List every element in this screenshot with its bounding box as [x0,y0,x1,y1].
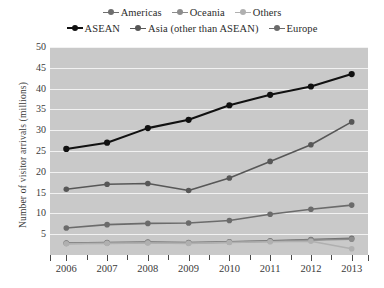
series-europe [64,202,355,230]
series-asean [63,71,355,152]
y-tick-label: 5 [24,229,46,239]
data-point [267,92,273,98]
data-point [349,236,355,242]
data-point [64,241,70,247]
legend-entry-others[interactable]: Others [235,7,282,18]
data-point [64,186,70,192]
y-tick-label: 35 [24,104,46,114]
x-axis-ticks [50,255,368,262]
data-point [104,222,110,228]
x-tick-mark [107,255,108,261]
legend-label-others: Others [253,7,282,18]
x-tick-label: 2009 [169,263,209,275]
legend-row-2: ASEAN Asia (other than ASEAN) Europe [0,20,384,36]
data-point [186,117,192,123]
x-tick-label: 2012 [291,263,331,275]
x-tick-mark-minor [168,255,169,260]
y-axis-tick-labels: 5101520253035404550 [22,47,46,255]
y-tick-label: 30 [24,125,46,135]
data-point [63,146,69,152]
data-point [145,221,151,227]
data-point [349,202,355,208]
legend-label-americas: Americas [121,7,162,18]
legend-row-1: Americas Oceania Others [0,4,384,20]
legend-label-europe: Europe [287,23,318,34]
x-tick-label: 2006 [46,263,86,275]
legend-entry-oceania[interactable]: Oceania [172,7,225,18]
legend-marker-icon-europe [269,24,285,33]
x-tick-mark-minor [250,255,251,260]
x-tick-mark-minor [87,255,88,260]
data-point [349,71,355,77]
legend-marker-icon-americas [103,8,119,17]
data-point [104,140,110,146]
plot-area [50,47,368,255]
y-tick-label: 50 [24,42,46,52]
x-tick-mark [148,255,149,261]
legend-label-asia-other: Asia (other than ASEAN) [148,23,259,34]
data-point [145,240,151,246]
data-point [308,206,314,212]
legend-label-asean: ASEAN [85,23,121,34]
data-point [308,142,314,148]
chart-legend: Americas Oceania Others [0,4,384,38]
data-point [226,102,232,108]
legend-marker-icon-asia-other [130,24,146,33]
x-tick-label: 2010 [209,263,249,275]
data-point [227,240,233,246]
x-tick-mark-minor [331,255,332,260]
y-tick-label: 15 [24,188,46,198]
legend-marker-icon-asean [67,24,83,33]
legend-marker-icon-oceania [172,8,188,17]
legend-marker-icon-others [235,8,251,17]
data-point [267,211,273,217]
x-tick-mark [189,255,190,261]
data-point [349,119,355,125]
series-asia-other-than-asean [64,119,355,193]
legend-entry-asean[interactable]: ASEAN [67,23,121,34]
data-point [145,181,151,187]
data-point [64,225,70,231]
data-point [267,159,273,165]
y-tick-label: 45 [24,63,46,73]
data-point [104,241,110,247]
data-point [227,218,233,224]
x-tick-mark-edge [368,255,369,261]
series-line [66,122,351,191]
series-lines [50,47,368,255]
legend-entry-europe[interactable]: Europe [269,23,318,34]
chart-figure: Americas Oceania Others [0,0,384,288]
x-tick-mark [229,255,230,261]
data-point [267,239,273,245]
x-tick-mark-minor [127,255,128,260]
y-tick-label: 10 [24,208,46,218]
legend-label-oceania: Oceania [190,7,225,18]
x-tick-label: 2008 [128,263,168,275]
y-tick-label: 40 [24,84,46,94]
data-point [186,188,192,194]
x-tick-mark [311,255,312,261]
x-tick-mark-minor [209,255,210,260]
x-axis-tick-labels: 20062007200820092010201120122013 [50,263,368,279]
x-tick-mark [270,255,271,261]
data-point [104,181,110,187]
x-tick-mark-edge [50,255,51,261]
data-point [227,175,233,181]
x-tick-mark [352,255,353,261]
data-point [349,246,355,252]
legend-entry-americas[interactable]: Americas [103,7,162,18]
data-point [186,241,192,247]
x-tick-label: 2011 [250,263,290,275]
x-tick-mark-minor [291,255,292,260]
y-tick-label: 20 [24,167,46,177]
data-point [145,125,151,131]
x-tick-mark [66,255,67,261]
data-point [308,83,314,89]
legend-entry-asia-other[interactable]: Asia (other than ASEAN) [130,23,259,34]
x-tick-label: 2013 [332,263,372,275]
data-point [308,238,314,244]
y-tick-label: 25 [24,146,46,156]
data-point [186,220,192,226]
x-tick-label: 2007 [87,263,127,275]
